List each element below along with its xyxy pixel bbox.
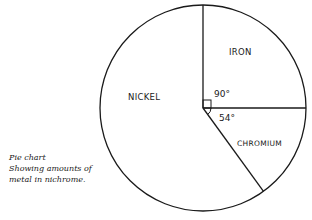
pie-chart — [0, 0, 312, 220]
label-iron: IRON — [229, 47, 252, 57]
label-nickel: NICKEL — [128, 92, 160, 102]
right-angle-marker — [203, 100, 211, 108]
caption-line-2: Showing amounts of — [9, 163, 92, 174]
angle-label-chromium: 54° — [219, 113, 235, 123]
chart-caption: Pie chart Showing amounts of metal in ni… — [9, 152, 92, 185]
label-chromium: CHROMIUM — [237, 139, 282, 148]
angle-arc-54 — [208, 108, 211, 115]
angle-label-iron: 90° — [214, 89, 230, 99]
caption-line-3: metal in nichrome. — [9, 174, 92, 185]
caption-line-1: Pie chart — [9, 152, 92, 163]
